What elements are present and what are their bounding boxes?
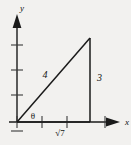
triangle-diagram: y x 4 3 √7 θ	[0, 0, 131, 145]
x-axis-arrow-icon	[106, 118, 120, 127]
vertical-leg-label: 3	[96, 72, 102, 83]
angle-label: θ	[31, 111, 35, 121]
x-axis-label: x	[124, 117, 129, 127]
hypotenuse-label: 4	[43, 69, 48, 80]
figure-container: y x 4 3 √7 θ	[0, 0, 131, 145]
y-axis-label: y	[19, 3, 24, 13]
triangle-hypotenuse	[17, 38, 90, 122]
y-axis-arrow-icon	[13, 14, 22, 28]
base-label: √7	[55, 128, 65, 138]
